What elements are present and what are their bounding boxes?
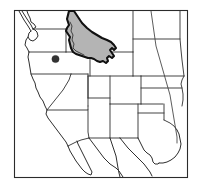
range-map-figure: [0, 0, 198, 189]
map-canvas: [0, 0, 198, 189]
map-frame-border: [15, 11, 188, 178]
locality-dot-icon: [52, 55, 59, 62]
